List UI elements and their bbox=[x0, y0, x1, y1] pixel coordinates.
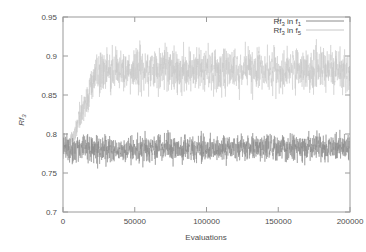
y-tick-label: 0.9 bbox=[46, 52, 58, 61]
x-tick-label: 200000 bbox=[337, 217, 364, 226]
chart-svg: 0.70.750.80.850.90.95 050000100000150000… bbox=[0, 0, 366, 252]
legend-label-series-2: Rf3 in f5 bbox=[273, 26, 301, 36]
y-tick-label: 0.95 bbox=[41, 13, 57, 22]
legend-2-mid: in f bbox=[285, 26, 299, 35]
legend-1-mid: in f bbox=[285, 17, 299, 26]
y-tick-label: 0.7 bbox=[46, 208, 58, 217]
x-tick-label: 0 bbox=[61, 217, 66, 226]
y-tick-label: 0.75 bbox=[41, 169, 57, 178]
chart-figure: 0.70.750.80.850.90.95 050000100000150000… bbox=[0, 0, 366, 252]
x-tick-label: 100000 bbox=[193, 217, 220, 226]
x-tick-label: 50000 bbox=[124, 217, 147, 226]
x-tick-label: 150000 bbox=[265, 217, 292, 226]
y-tick-label: 0.8 bbox=[46, 130, 58, 139]
y-tick-label: 0.85 bbox=[41, 91, 57, 100]
x-axis-title: Evaluations bbox=[185, 233, 226, 242]
